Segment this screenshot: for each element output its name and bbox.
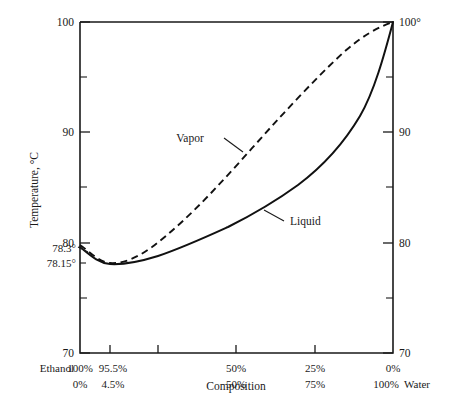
vapor-leader-line [224,138,243,152]
liquid-leader-line [264,210,284,221]
x-label-ethanol-95-5: 95.5% [99,362,127,374]
x-label-water-4-5: 4.5% [102,378,125,390]
x-axis-title: Composition [206,380,266,393]
x-label-water-100: 100% [373,378,399,390]
y-right-label-80: 80 [399,237,411,249]
x-label-ethanol-100: 100% [67,362,93,374]
vapor-label: Vapor [176,132,204,145]
x-label-ethanol-25: 25% [305,362,325,374]
x-label-ethanol-50: 50% [226,362,246,374]
ethanol-water-phase-diagram: 100 90 80 78.3° 78.15° 70 Temperature, °… [0,0,459,412]
y-label-70: 70 [63,347,75,359]
x-label-water-75: 75% [305,378,325,390]
y-right-label-70: 70 [399,347,411,359]
plot-frame [80,22,393,353]
phase-diagram-page: 100 90 80 78.3° 78.15° 70 Temperature, °… [0,0,459,412]
y-label-90: 90 [63,126,75,138]
vapor-curve [80,22,393,263]
x-axis-water-suffix: Water [404,378,430,390]
y-axis-title: Temperature, °C [28,152,41,228]
y-label-78-3: 78.3° [52,242,76,254]
y-label-78-15: 78.15° [47,257,76,269]
x-label-water-0: 0% [73,378,88,390]
liquid-label: Liquid [290,215,321,228]
y-label-100: 100 [57,16,75,28]
y-right-label-90: 90 [399,126,411,138]
y-right-label-100: 100° [399,16,421,28]
liquid-curve [80,22,393,264]
x-label-ethanol-0: 0% [386,362,401,374]
